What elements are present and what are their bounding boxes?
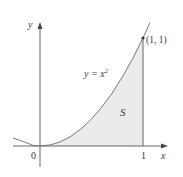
- point-label: (1, 1): [146, 35, 167, 46]
- curve-equation-base: y = x: [83, 68, 105, 79]
- point-1-1-marker: [141, 36, 144, 39]
- area-under-parabola-diagram: y x 0 1 (1, 1) y = x2 S: [0, 0, 183, 177]
- x-axis-label: x: [160, 150, 166, 161]
- x-tick-label-1: 1: [141, 150, 146, 161]
- curve-equation-exponent: 2: [105, 67, 109, 74]
- curve-equation-label: y = x2: [83, 67, 109, 79]
- y-axis-label: y: [27, 19, 33, 30]
- region-s-label: S: [120, 106, 126, 118]
- x-axis-arrow-icon: [161, 144, 168, 149]
- region-s-shading: [40, 38, 143, 146]
- y-axis-arrow-icon: [38, 22, 43, 29]
- origin-label: 0: [31, 150, 36, 161]
